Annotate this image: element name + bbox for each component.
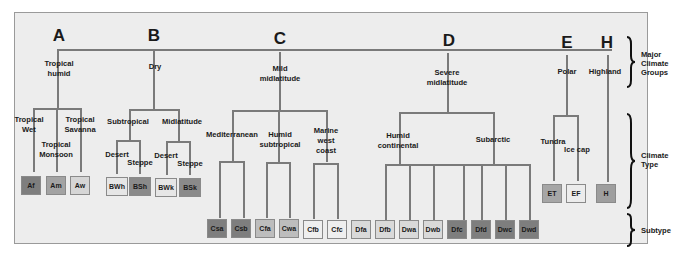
type-mediterranean: Mediterranean — [206, 130, 258, 140]
group-letter-e: E — [561, 34, 572, 52]
connector-line — [232, 110, 328, 112]
type-humid-subtropical: Humidsubtropical — [260, 130, 301, 150]
connector-line — [57, 49, 612, 51]
connector-line — [219, 161, 221, 218]
connector-line — [399, 112, 495, 114]
type-humid-continental: Humidcontinental — [378, 131, 419, 151]
connector-line — [313, 163, 338, 165]
group-name-mild-midlatitude: Mildmidlatitude — [260, 64, 301, 84]
code-box-aw: Aw — [70, 176, 90, 195]
connector-line — [139, 140, 141, 174]
group-name-highland: Highland — [589, 67, 621, 77]
type-subtropical: Subtropical — [107, 117, 149, 127]
code-box-dwd: Dwd — [519, 220, 539, 239]
brace-subtype-icon — [626, 213, 636, 247]
connector-line — [116, 140, 140, 142]
group-letter-c: C — [274, 30, 286, 48]
code-box-ef: EF — [566, 184, 586, 203]
connector-line — [463, 164, 465, 220]
connector-line — [553, 115, 555, 181]
connector-line — [481, 164, 483, 220]
code-box-h: H — [596, 184, 616, 203]
code-box-bwh: BWh — [106, 177, 128, 196]
brace-climate-type-icon — [626, 113, 636, 209]
type-steppe-cold: Steppe — [177, 159, 202, 169]
type-tropical-monsoon: TropicalMonsoon — [39, 140, 73, 160]
climate-classification-diagram: A B C D E H Tropicalhumid Dry Mildmidlat… — [0, 0, 689, 264]
legend-climate-type: ClimateType — [641, 151, 668, 169]
code-box-dwa: Dwa — [399, 220, 419, 239]
group-name-tropical-humid: Tropicalhumid — [44, 59, 73, 79]
group-letter-b: B — [148, 27, 160, 45]
code-box-bwk: BWk — [155, 178, 177, 197]
code-box-dfc: Dfc — [447, 220, 467, 239]
group-letter-d: D — [443, 32, 455, 50]
type-steppe-hot: Steppe — [127, 158, 152, 168]
brace-major-groups-icon — [626, 36, 636, 88]
type-marine-west-coast: Marinewestcoast — [314, 126, 338, 156]
code-box-cfa: Cfa — [255, 219, 275, 238]
type-ice-cap: Ice cap — [564, 145, 590, 155]
code-box-cwa: Cwa — [279, 219, 299, 238]
legend-subtype: Subtype — [641, 226, 671, 235]
connector-line — [457, 164, 530, 166]
code-box-cfc: Cfc — [327, 220, 347, 239]
connector-line — [153, 50, 155, 109]
connector-line — [409, 164, 411, 220]
group-name-dry: Dry — [149, 62, 162, 72]
group-name-polar: Polar — [558, 67, 577, 77]
group-name-severe-midlatitude: Severemidlatitude — [427, 68, 468, 88]
type-midlatitude: Midlatitude — [162, 117, 202, 127]
connector-line — [243, 161, 245, 218]
connector-line — [313, 163, 315, 219]
code-box-af: Af — [21, 176, 41, 195]
connector-line — [219, 161, 244, 163]
type-desert-cold: Desert — [154, 151, 178, 161]
connector-line — [266, 162, 290, 164]
type-tropical-savanna: TropicalSavanna — [64, 115, 95, 135]
connector-line — [129, 109, 179, 111]
connector-line — [166, 141, 190, 143]
code-box-bsh: BSh — [129, 177, 151, 196]
connector-line — [289, 162, 291, 218]
connector-line — [529, 164, 531, 220]
connector-line — [266, 162, 268, 218]
code-box-dfd: Dfd — [471, 220, 491, 239]
type-desert-hot: Desert — [105, 150, 129, 160]
type-tundra: Tundra — [540, 137, 565, 147]
connector-line — [385, 164, 465, 166]
group-letter-a: A — [53, 27, 65, 45]
code-box-csb: Csb — [231, 219, 251, 238]
connector-line — [505, 164, 507, 220]
connector-line — [433, 164, 435, 220]
code-box-cfb: Cfb — [303, 220, 323, 239]
connector-line — [385, 164, 387, 220]
code-box-dwb: Dwb — [423, 220, 443, 239]
code-box-dfa: Dfa — [351, 220, 371, 239]
code-box-bsk: BSk — [179, 178, 201, 197]
connector-line — [553, 115, 578, 117]
connector-line — [566, 55, 568, 115]
legend-major-climate-groups: MajorClimateGroups — [641, 50, 668, 77]
code-box-dwc: Dwc — [495, 220, 515, 239]
type-subarctic: Subarctic — [476, 135, 511, 145]
code-box-dfb: Dfb — [375, 220, 395, 239]
connector-line — [57, 49, 59, 109]
connector-line — [189, 141, 191, 175]
connector-line — [337, 163, 339, 219]
code-box-et: ET — [542, 184, 562, 203]
code-box-csa: Csa — [207, 219, 227, 238]
code-box-am: Am — [46, 176, 66, 195]
group-letter-h: H — [601, 34, 613, 52]
type-tropical-wet: TropicalWet — [14, 115, 43, 135]
